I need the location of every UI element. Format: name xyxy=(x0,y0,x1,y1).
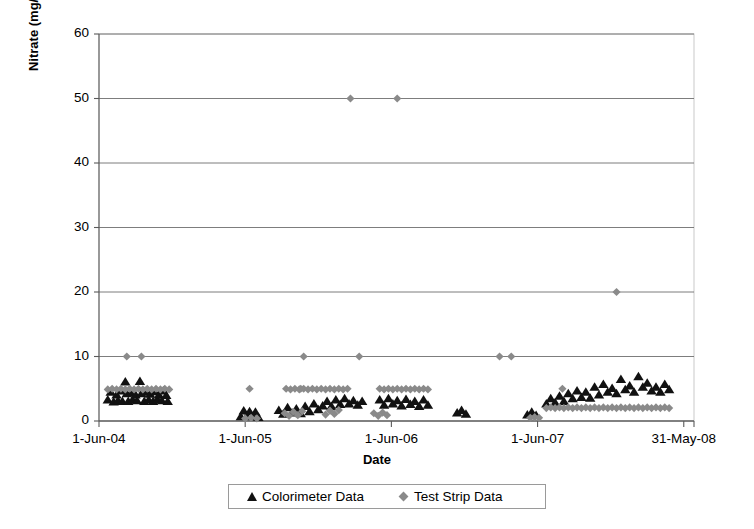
y-tick-label: 10 xyxy=(55,348,89,363)
y-tick-label: 50 xyxy=(55,90,89,105)
x-tick-label: 31-May-08 xyxy=(624,431,744,446)
x-tick-label: 1-Jun-04 xyxy=(39,431,159,446)
y-tick-label: 0 xyxy=(55,412,89,427)
legend-label-test-strip: Test Strip Data xyxy=(414,489,503,504)
y-tick-label: 40 xyxy=(55,154,89,169)
legend-label-colorimeter: Colorimeter Data xyxy=(262,489,364,504)
legend-item-test-strip: Test Strip Data xyxy=(400,489,503,504)
x-tick-label: 1-Jun-06 xyxy=(331,431,451,446)
plot-canvas xyxy=(0,0,754,529)
y-tick-label: 30 xyxy=(55,219,89,234)
y-tick-label: 60 xyxy=(55,25,89,40)
nitrate-scatter-chart: Nitrate (mg/l NO3-N) Date 0102030405060 … xyxy=(0,0,754,529)
triangle-marker-icon xyxy=(247,492,257,501)
legend-item-colorimeter: Colorimeter Data xyxy=(247,489,364,504)
x-tick-label: 1-Jun-07 xyxy=(478,431,598,446)
x-tick-label: 1-Jun-05 xyxy=(185,431,305,446)
diamond-marker-icon xyxy=(399,492,409,502)
y-tick-label: 20 xyxy=(55,283,89,298)
chart-legend: Colorimeter Data Test Strip Data xyxy=(228,484,546,509)
